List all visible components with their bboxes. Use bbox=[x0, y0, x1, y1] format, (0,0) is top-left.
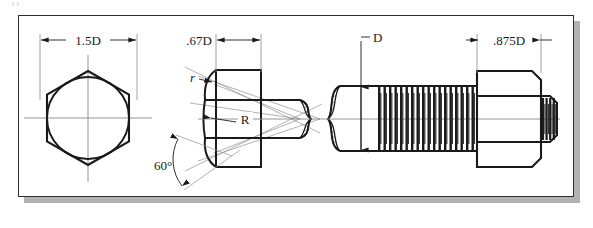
side-view-hex-head: .67D r R 60° bbox=[154, 33, 322, 190]
angle-arc-60 bbox=[173, 139, 182, 186]
end-view-hex-head: 1.5D bbox=[24, 32, 152, 182]
drawing-canvas: ıı bbox=[0, 0, 593, 228]
dimension-label-D: D bbox=[373, 30, 382, 45]
chamfer-arc-top bbox=[205, 70, 216, 100]
break-hatch-right-upper bbox=[328, 86, 340, 119]
break-hatch-left-upper bbox=[300, 100, 311, 119]
conventional-break-symbol bbox=[261, 86, 340, 151]
dimension-label-0-67d: .67D bbox=[186, 33, 212, 48]
projection-line-f bbox=[214, 84, 300, 119]
annotation-label-60-degrees: 60° bbox=[154, 158, 172, 173]
break-hatch-right-lower bbox=[328, 119, 340, 151]
thread-stub-lines bbox=[543, 98, 556, 140]
thread-schematic-lines bbox=[379, 86, 474, 151]
projection-line-g bbox=[214, 119, 300, 153]
break-hatch-left-lower bbox=[300, 119, 311, 138]
hex-nut: .875D bbox=[466, 33, 557, 167]
annotation-label-R-large: R bbox=[241, 112, 250, 127]
engineering-drawing-svg: 1.5D .67D bbox=[0, 0, 593, 228]
dimension-label-0-875d: .875D bbox=[493, 33, 525, 48]
dimension-label-1-5d: 1.5D bbox=[75, 33, 101, 48]
